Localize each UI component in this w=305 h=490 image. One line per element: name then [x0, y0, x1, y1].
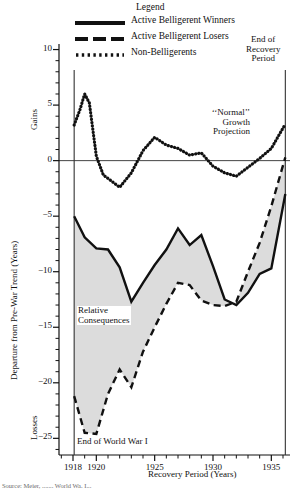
annotation-relative-consequences: Relative Consequences	[77, 306, 131, 325]
annotation-relative-consequences-line2: Consequences	[78, 316, 130, 326]
y-tick-label: 5	[8, 99, 52, 109]
y-tick-label: −20	[8, 377, 52, 387]
x-tick-label: 1930	[197, 463, 229, 473]
shaded-region-relative-consequences	[74, 157, 285, 434]
y-axis-title: Departure from Pre-War Trend (Years)	[10, 241, 20, 380]
figure-root: Legend Active Belligerent Winners Active…	[0, 0, 305, 490]
chart-plot-area	[0, 0, 305, 490]
y-tick-label: 0	[8, 155, 52, 165]
annotation-end-of-wwi: End of World War I	[76, 437, 149, 447]
y-tick-label: −15	[8, 321, 52, 331]
y-tick-label: 10	[8, 44, 52, 54]
annotation-normal-growth: ‘‘Normal’’ Growth Projection	[186, 108, 250, 137]
annotation-normal-growth-line3: Projection	[186, 127, 250, 137]
y-axis-gains-label: Gains	[30, 109, 40, 130]
x-tick-label: 1925	[139, 463, 171, 473]
x-tick-label: 1920	[80, 463, 112, 473]
annotation-end-of-recovery: End of Recovery Period	[246, 35, 280, 64]
y-tick-label: −5	[8, 210, 52, 220]
y-tick-label: −10	[8, 266, 52, 276]
y-tick-label: −25	[8, 432, 52, 442]
x-tick-label: 1935	[255, 463, 287, 473]
figure-caption: Source: Meier, ....... World Wa. I...	[2, 482, 91, 489]
series-line-non-belligerents	[74, 94, 285, 187]
annotation-end-of-recovery-line3: Period	[246, 54, 280, 64]
